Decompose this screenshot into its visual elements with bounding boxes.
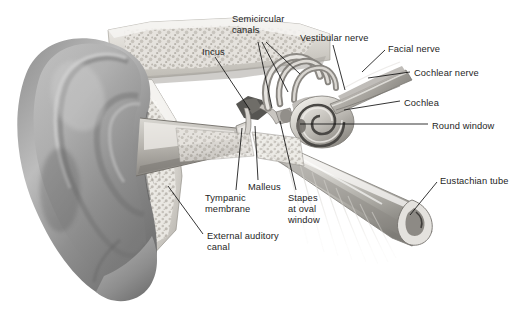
label-eustachian-tube: Eustachian tube: [440, 176, 508, 187]
label-cochlear-nerve: Cochlear nerve: [414, 68, 479, 79]
label-stapes-at-oval-window: Stapes at oval window: [288, 193, 320, 227]
label-semicircular-canals: Semicircular canals: [232, 14, 285, 36]
label-external-auditory-canal: External auditory canal: [207, 231, 279, 253]
ear-illustration: [0, 0, 528, 325]
label-cochlea: Cochlea: [404, 98, 439, 109]
label-facial-nerve: Facial nerve: [388, 44, 440, 55]
outer-ear-pinna: [17, 38, 157, 301]
label-tympanic-membrane: Tympanic membrane: [205, 193, 250, 215]
label-round-window: Round window: [432, 121, 494, 132]
label-malleus: Malleus: [248, 182, 281, 193]
leader-facial-nerve: [362, 50, 385, 72]
label-vestibular-nerve: Vestibular nerve: [300, 33, 369, 44]
ear-anatomy-figure: Semicircular canalsVestibular nerveFacia…: [0, 0, 528, 325]
label-incus: Incus: [202, 47, 225, 58]
nerve-bundle: [330, 62, 412, 114]
